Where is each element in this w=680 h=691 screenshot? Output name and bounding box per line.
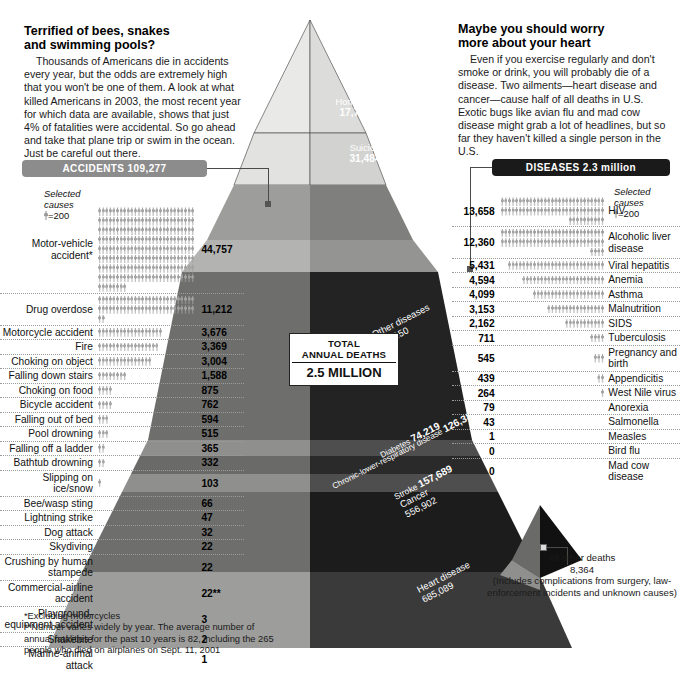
person-figure-icon bbox=[120, 328, 123, 337]
total-label-line2: ANNUAL DEATHS bbox=[292, 349, 396, 360]
person-figure-icon bbox=[529, 261, 532, 270]
person-figure-icon bbox=[155, 296, 158, 305]
person-figure-icon bbox=[580, 216, 583, 225]
cause-row: 4,099Asthma bbox=[452, 287, 680, 302]
person-figure-icon bbox=[145, 357, 148, 366]
person-figure-icon bbox=[580, 207, 583, 216]
cause-label: Pool drowning bbox=[0, 428, 98, 440]
person-figure-icon bbox=[191, 207, 194, 216]
person-figure-icon bbox=[590, 319, 593, 328]
person-figure-icon bbox=[130, 296, 133, 305]
person-figure-icon bbox=[519, 238, 522, 247]
person-figure-icon bbox=[159, 296, 162, 305]
person-figure-icon bbox=[547, 238, 550, 247]
person-figure-icon bbox=[580, 238, 583, 247]
person-figure-icon bbox=[137, 357, 140, 366]
person-figure-icon bbox=[98, 264, 101, 273]
person-figure-icon bbox=[163, 217, 166, 226]
person-figure-icon bbox=[537, 261, 540, 270]
cause-pictogram bbox=[98, 386, 197, 395]
person-figure-icon bbox=[123, 245, 126, 254]
cause-value: 332 bbox=[196, 457, 244, 468]
person-figure-icon bbox=[148, 226, 151, 235]
footnote-line2: **Number varies widely by year. The aver… bbox=[24, 622, 284, 656]
person-figure-icon bbox=[152, 245, 155, 254]
person-figure-icon bbox=[112, 274, 115, 283]
person-figure-icon bbox=[123, 357, 126, 366]
person-figure-icon bbox=[116, 245, 119, 254]
cause-label: Anorexia bbox=[604, 402, 680, 414]
person-figure-icon bbox=[522, 238, 525, 247]
person-figure-icon bbox=[184, 226, 187, 235]
pyramid-label-homicide-name: Homicide bbox=[335, 96, 374, 107]
person-figure-icon bbox=[159, 255, 162, 264]
person-figure-icon bbox=[191, 226, 194, 235]
person-figure-icon bbox=[98, 274, 101, 283]
cause-value: 11,212 bbox=[196, 304, 244, 315]
person-figure-icon bbox=[98, 305, 101, 314]
person-figure-icon bbox=[544, 197, 547, 206]
person-figure-icon bbox=[105, 236, 108, 245]
person-figure-icon bbox=[137, 264, 140, 273]
person-figure-icon bbox=[141, 343, 144, 352]
person-figure-icon bbox=[120, 245, 123, 254]
person-figure-icon bbox=[554, 305, 557, 314]
person-figure-icon bbox=[512, 207, 515, 216]
person-figure-icon bbox=[145, 207, 148, 216]
person-figure-icon bbox=[572, 261, 575, 270]
person-figure-icon bbox=[141, 207, 144, 216]
all-other-value: 8,364 bbox=[486, 564, 678, 576]
person-figure-icon bbox=[127, 343, 130, 352]
person-figure-icon bbox=[565, 290, 568, 299]
legend-accidents-line1: Selected bbox=[44, 188, 104, 199]
person-figure-icon bbox=[533, 229, 536, 238]
person-figure-icon bbox=[533, 276, 536, 285]
pyramid-label-homicide: Homicide 17,732 bbox=[312, 96, 398, 118]
person-figure-icon bbox=[159, 328, 162, 337]
cause-label: Falling off a ladder bbox=[0, 443, 98, 455]
cause-row: Crushing by human stampede22 bbox=[0, 554, 244, 580]
person-figure-icon bbox=[547, 229, 550, 238]
person-figure-icon bbox=[109, 386, 112, 395]
person-figure-icon bbox=[594, 305, 597, 314]
intro-right: Maybe you should worry more about your h… bbox=[458, 22, 670, 159]
person-figure-icon bbox=[145, 217, 148, 226]
accidents-banner: ACCIDENTS 109,277 bbox=[22, 160, 207, 177]
person-figure-icon bbox=[540, 229, 543, 238]
person-figure-icon bbox=[580, 319, 583, 328]
cause-value: 3,369 bbox=[196, 341, 244, 352]
person-figure-icon bbox=[173, 264, 176, 273]
person-figure-icon bbox=[533, 238, 536, 247]
person-figure-icon bbox=[123, 217, 126, 226]
person-figure-icon bbox=[533, 207, 536, 216]
person-figure-icon bbox=[594, 207, 597, 216]
person-figure-icon bbox=[116, 283, 119, 292]
person-figure-icon bbox=[166, 207, 169, 216]
cause-row: Drug overdose11,212 bbox=[0, 293, 244, 324]
cause-pictogram bbox=[98, 415, 197, 424]
person-figure-icon bbox=[526, 238, 529, 247]
person-figure-icon bbox=[109, 217, 112, 226]
person-figure-icon bbox=[166, 274, 169, 283]
person-figure-icon bbox=[188, 274, 191, 283]
person-figure-icon bbox=[123, 283, 126, 292]
person-figure-icon bbox=[177, 305, 180, 314]
person-figure-icon bbox=[170, 226, 173, 235]
person-figure-icon bbox=[109, 245, 112, 254]
person-figure-icon bbox=[587, 216, 590, 225]
cause-value: 711 bbox=[452, 333, 500, 344]
cause-row: Fire3,369 bbox=[0, 339, 244, 354]
person-figure-icon bbox=[152, 274, 155, 283]
person-figure-icon bbox=[116, 255, 119, 264]
person-figure-icon bbox=[145, 274, 148, 283]
person-figure-icon bbox=[594, 229, 597, 238]
person-figure-icon bbox=[562, 261, 565, 270]
person-figure-icon bbox=[112, 305, 115, 314]
person-figure-icon bbox=[155, 207, 158, 216]
person-figure-icon bbox=[159, 264, 162, 273]
person-figure-icon bbox=[166, 305, 169, 314]
person-figure-icon bbox=[105, 217, 108, 226]
cause-pictogram bbox=[98, 444, 197, 453]
cause-label: Motor-vehicle accident* bbox=[0, 238, 98, 261]
cause-pictogram bbox=[500, 275, 605, 284]
